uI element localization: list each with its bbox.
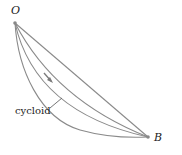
point-b-marker	[146, 135, 150, 139]
cycloid-label: cycloid	[15, 105, 51, 116]
brachistochrone-diagram: O B cycloid	[0, 0, 182, 155]
point-o-marker	[13, 21, 17, 25]
straight-path	[15, 23, 148, 137]
cycloid-label-pointer	[50, 98, 62, 108]
point-b-label: B	[153, 131, 162, 144]
point-o-label: O	[11, 4, 20, 17]
